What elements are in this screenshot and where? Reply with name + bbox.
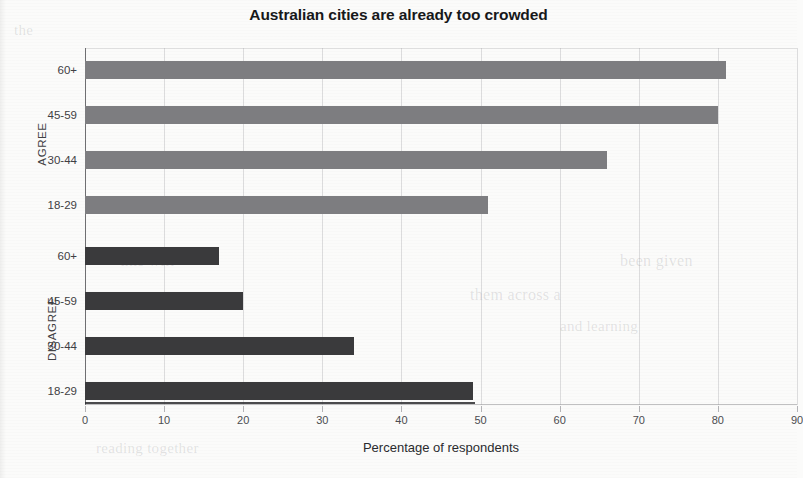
x-axis-tick	[718, 406, 719, 412]
x-tick-label: 80	[712, 414, 724, 426]
x-axis-tick	[560, 406, 561, 412]
x-axis-tick	[243, 406, 244, 412]
x-axis-tick	[639, 406, 640, 412]
bar-agree-45-59	[85, 106, 718, 124]
y-tick-label-agree-45-59: 45-59	[15, 109, 77, 121]
bar-agree-30-44	[85, 151, 607, 169]
x-axis-tick	[85, 406, 86, 412]
group-label-text: AGREE	[36, 122, 48, 165]
gridline	[560, 48, 561, 405]
chart-title: Australian cities are already too crowde…	[0, 6, 797, 24]
bar-agree-18-29	[85, 196, 488, 214]
group-label-disagree: DISAGREE	[20, 323, 84, 335]
x-tick-label: 50	[474, 414, 486, 426]
x-tick-label: 90	[791, 414, 803, 426]
x-tick-label: 0	[82, 414, 88, 426]
x-tick-label: 30	[316, 414, 328, 426]
x-axis-tick	[481, 406, 482, 412]
x-axis-tick	[401, 406, 402, 412]
x-axis-line	[85, 404, 797, 405]
gridline	[401, 48, 402, 405]
gridline	[639, 48, 640, 405]
group-label-text: DISAGREE	[46, 297, 58, 361]
gridline	[481, 48, 482, 405]
gridline	[797, 48, 798, 405]
y-tick-label-agree-60+: 60+	[15, 64, 77, 76]
x-axis-tick	[164, 406, 165, 412]
x-axis-tick	[797, 406, 798, 412]
bar-disagree-18-29	[85, 382, 473, 400]
bar-agree-60+	[85, 61, 726, 79]
group-label-agree: AGREE	[20, 138, 63, 150]
y-tick-label-agree-18-29: 18-29	[15, 199, 77, 211]
y-tick-label-disagree-18-29: 18-29	[15, 385, 77, 397]
scan-artifact-rule	[85, 402, 475, 404]
bar-disagree-30-44	[85, 337, 354, 355]
x-tick-label: 60	[554, 414, 566, 426]
x-tick-label: 40	[395, 414, 407, 426]
x-axis-title: Percentage of respondents	[85, 440, 797, 455]
x-axis-tick	[322, 406, 323, 412]
bar-disagree-45-59	[85, 292, 243, 310]
x-tick-label: 70	[633, 414, 645, 426]
plot-area: 0102030405060708090 Percentage of respon…	[85, 48, 797, 405]
x-tick-label: 20	[237, 414, 249, 426]
y-tick-label-disagree-60+: 60+	[15, 250, 77, 262]
gridline	[718, 48, 719, 405]
bar-disagree-60+	[85, 247, 219, 265]
plot-top-border	[85, 48, 797, 49]
x-tick-label: 10	[158, 414, 170, 426]
